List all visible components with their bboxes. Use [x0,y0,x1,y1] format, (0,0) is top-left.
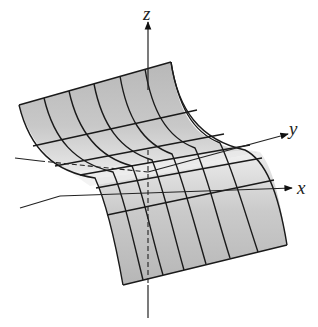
z-axis-label: z [143,4,150,23]
x-axis-tail [20,196,60,208]
surface [19,62,287,285]
surface-diagram [0,0,318,327]
axes-back [15,158,60,208]
y-axis-tail [15,158,40,161]
y-axis-label: y [289,119,297,138]
x-axis-label: x [297,178,305,197]
